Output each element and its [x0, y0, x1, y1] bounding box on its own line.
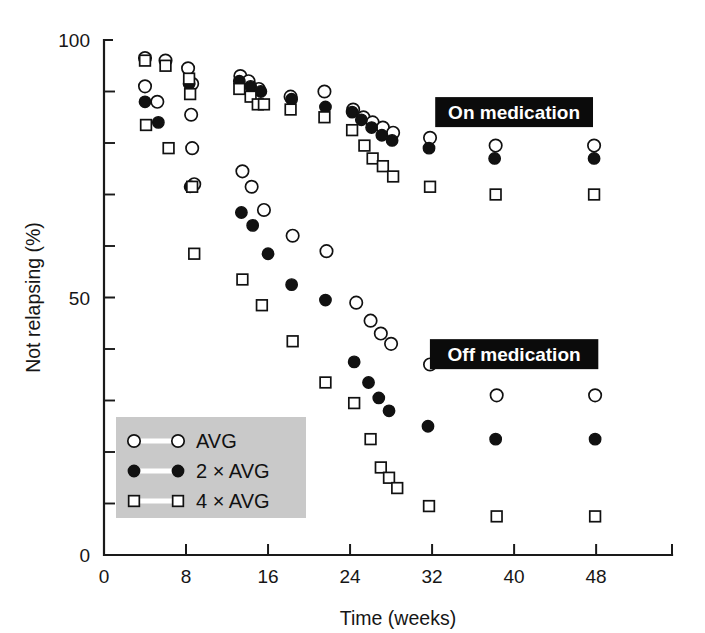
y-axis-title: Not relapsing (%) — [22, 222, 44, 373]
marker-filled-circle — [255, 86, 266, 97]
chart-annotations: On medicationOff medication — [430, 97, 598, 369]
marker-open-square — [359, 140, 370, 151]
marker-open-square — [185, 89, 196, 100]
marker-open-circle — [185, 108, 197, 120]
marker-open-square — [349, 398, 360, 409]
marker-open-circle-legend — [172, 435, 184, 447]
marker-open-circle — [588, 139, 600, 151]
marker-open-circle — [364, 314, 376, 326]
marker-open-square — [259, 99, 270, 110]
marker-open-square — [234, 84, 245, 95]
marker-open-square — [424, 501, 435, 512]
marker-open-square — [187, 181, 198, 192]
marker-filled-circle — [153, 117, 164, 128]
marker-open-square — [392, 483, 403, 494]
marker-filled-circle — [589, 433, 600, 444]
x-tick-label: 0 — [99, 566, 110, 587]
marker-open-circle — [589, 389, 601, 401]
marker-filled-circle — [422, 421, 433, 432]
marker-open-square — [319, 112, 330, 123]
marker-filled-circle — [588, 153, 599, 164]
marker-open-circle — [186, 142, 198, 154]
marker-open-circle — [375, 327, 387, 339]
marker-open-circle — [245, 181, 257, 193]
marker-filled-circle-legend — [172, 465, 183, 476]
x-tick-label: 8 — [181, 566, 192, 587]
marker-filled-circle — [386, 135, 397, 146]
marker-open-square — [189, 248, 200, 259]
marker-open-square — [388, 171, 399, 182]
annotation-on-medication: On medication — [435, 97, 593, 127]
marker-open-square — [347, 125, 358, 136]
y-tick-label: 100 — [58, 30, 90, 51]
marker-open-square — [160, 60, 171, 71]
marker-filled-circle — [356, 114, 367, 125]
marker-filled-circle — [346, 106, 357, 117]
marker-open-square — [141, 120, 152, 131]
marker-open-circle — [490, 389, 502, 401]
marker-open-circle — [350, 296, 362, 308]
legend-label: 2 × AVG — [196, 460, 270, 482]
marker-filled-circle — [139, 96, 150, 107]
marker-open-circle — [151, 96, 163, 108]
legend-label: 4 × AVG — [196, 490, 270, 512]
marker-open-circle — [318, 85, 330, 97]
marker-open-circle — [258, 204, 270, 216]
marker-filled-circle — [247, 220, 258, 231]
marker-filled-circle — [286, 279, 297, 290]
marker-open-circle — [286, 230, 298, 242]
x-tick-label: 32 — [422, 566, 443, 587]
marker-open-square-legend — [129, 496, 140, 507]
marker-filled-circle-legend — [128, 465, 139, 476]
marker-filled-circle — [490, 433, 501, 444]
marker-filled-circle — [236, 207, 247, 218]
marker-filled-circle — [423, 142, 434, 153]
marker-open-square — [140, 55, 151, 66]
marker-open-square — [287, 336, 298, 347]
marker-open-square — [384, 472, 395, 483]
annotation-label: On medication — [448, 102, 580, 123]
marker-filled-circle — [320, 294, 331, 305]
marker-open-square — [257, 300, 268, 311]
marker-open-circle — [236, 165, 248, 177]
scatter-plot: 050100081624324048 AVG2 × AVG4 × AVG On … — [0, 0, 705, 633]
chart-legend[interactable]: AVG2 × AVG4 × AVG — [116, 417, 306, 518]
marker-filled-circle — [489, 153, 500, 164]
marker-filled-circle — [262, 248, 273, 259]
marker-filled-circle — [373, 392, 384, 403]
x-tick-label: 24 — [339, 566, 361, 587]
annotation-off-medication: Off medication — [430, 339, 598, 369]
marker-open-square — [375, 462, 386, 473]
marker-open-square — [237, 274, 248, 285]
marker-filled-circle — [286, 94, 297, 105]
x-axis-title: Time (weeks) — [340, 607, 456, 629]
marker-open-square — [490, 189, 501, 200]
x-tick-label: 48 — [586, 566, 607, 587]
marker-filled-circle — [320, 101, 331, 112]
marker-open-square-legend — [173, 496, 184, 507]
marker-open-circle — [385, 338, 397, 350]
marker-open-square — [365, 434, 376, 445]
marker-open-square — [590, 511, 601, 522]
marker-filled-circle — [366, 122, 377, 133]
marker-open-square — [378, 161, 389, 172]
marker-filled-circle — [348, 356, 359, 367]
series-2-avg — [139, 75, 601, 444]
marker-open-square — [320, 377, 331, 388]
marker-open-circle — [320, 245, 332, 257]
y-tick-label: 50 — [69, 288, 90, 309]
marker-open-circle — [489, 139, 501, 151]
marker-open-square — [589, 189, 600, 200]
marker-open-square — [163, 143, 174, 154]
marker-open-square — [491, 511, 502, 522]
annotation-label: Off medication — [448, 344, 581, 365]
x-tick-label: 40 — [504, 566, 525, 587]
marker-open-circle-legend — [128, 435, 140, 447]
marker-open-circle — [139, 80, 151, 92]
marker-filled-circle — [363, 377, 374, 388]
marker-open-square — [184, 73, 195, 84]
marker-open-square — [425, 181, 436, 192]
x-tick-label: 16 — [257, 566, 278, 587]
y-tick-label: 0 — [79, 545, 90, 566]
marker-filled-circle — [383, 405, 394, 416]
